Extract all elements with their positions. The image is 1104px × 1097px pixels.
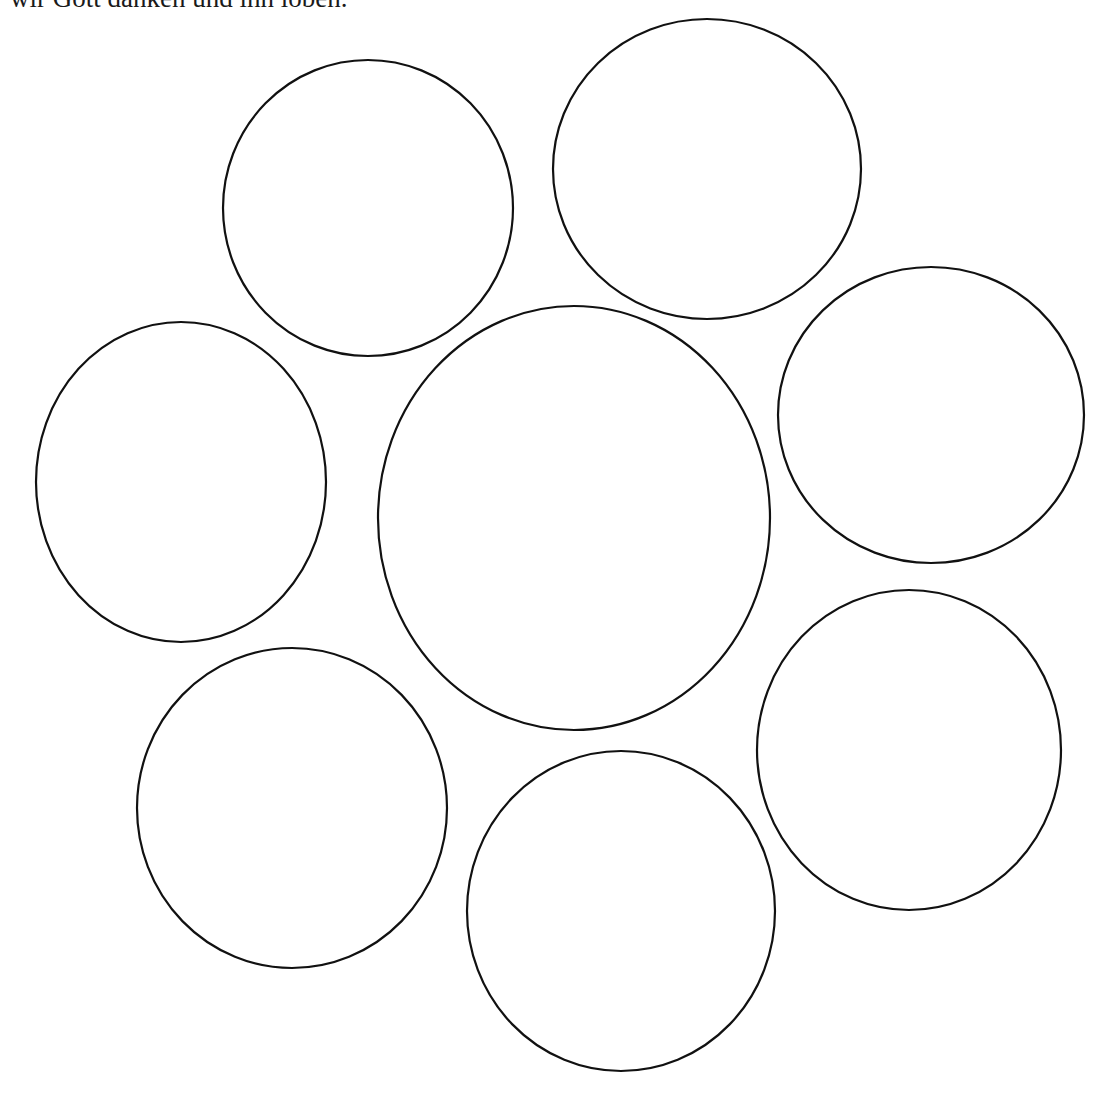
circle-bottom-right — [757, 590, 1061, 910]
circle-center — [378, 306, 770, 730]
circle-top-right — [553, 19, 861, 319]
circle-bottom-center — [467, 751, 775, 1071]
circle-diagram — [0, 0, 1104, 1097]
circle-top-left — [223, 60, 513, 356]
circle-right — [778, 267, 1084, 563]
circle-bottom-left — [137, 648, 447, 968]
circle-left — [36, 322, 326, 642]
